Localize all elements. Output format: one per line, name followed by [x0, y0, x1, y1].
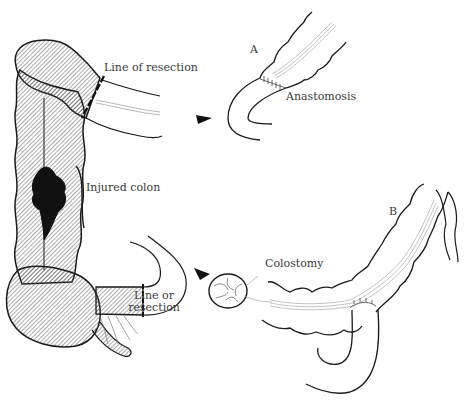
label-line-of-resection-bottom: Line or resection — [124, 290, 184, 314]
cecum — [6, 266, 100, 347]
panel-b-letter: B — [389, 206, 397, 218]
appendix — [92, 322, 131, 356]
arrow-to-panel-a — [196, 115, 212, 124]
panel-b-diagram — [209, 184, 458, 393]
label-line-of-resection-bottom-line2: resection — [124, 302, 184, 314]
label-injured-colon: Injured colon — [86, 182, 160, 194]
colostomy-stoma — [209, 274, 247, 308]
label-line-of-resection-top: Line of resection — [104, 62, 198, 74]
illustration — [0, 0, 475, 402]
label-colostomy: Colostomy — [265, 258, 324, 270]
arrow-to-panel-b — [194, 268, 210, 280]
figure-canvas: Line of resection Injured colon Line or … — [0, 0, 475, 402]
panel-a-letter: A — [250, 44, 258, 56]
panel-a-diagram — [228, 12, 346, 140]
label-anastomosis: Anastomosis — [286, 91, 356, 103]
